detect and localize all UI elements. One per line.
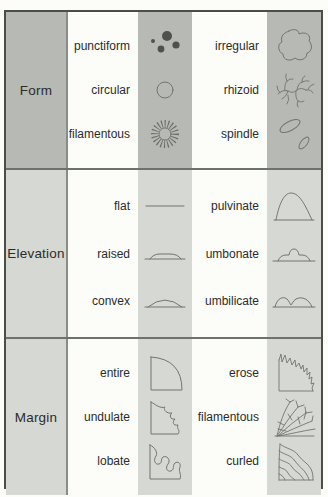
colony-morphology-diagram: Form punctiform circular filamentous bbox=[0, 0, 328, 497]
umbilicate-icon bbox=[270, 291, 318, 311]
label-punctiform: punctiform bbox=[74, 39, 130, 53]
label-undulate: undulate bbox=[84, 410, 130, 424]
morphology-table: Form punctiform circular filamentous bbox=[4, 10, 323, 489]
elevation-right-labels: pulvinate umbonate umbilicate bbox=[192, 170, 267, 337]
form-left-icons bbox=[138, 12, 192, 168]
label-circular: circular bbox=[91, 83, 130, 97]
label-lobate: lobate bbox=[97, 454, 130, 468]
form-right-icons bbox=[267, 12, 321, 168]
margin-left-labels: entire undulate lobate bbox=[68, 339, 138, 495]
label-pulvinate: pulvinate bbox=[211, 199, 259, 213]
label-rhizoid: rhizoid bbox=[224, 83, 259, 97]
margin-row: Margin entire undulate lobate bbox=[6, 337, 321, 487]
irregular-icon bbox=[273, 26, 315, 66]
umbonate-icon bbox=[270, 243, 318, 265]
filamentous-icon bbox=[143, 112, 187, 156]
form-right-labels: irregular rhizoid spindle bbox=[192, 12, 267, 168]
convex-icon bbox=[141, 291, 189, 311]
elevation-row: Elevation flat raised convex bbox=[6, 168, 321, 337]
label-convex: convex bbox=[92, 294, 130, 308]
label-spindle: spindle bbox=[221, 127, 259, 141]
erose-icon bbox=[272, 351, 316, 395]
rhizoid-icon bbox=[272, 69, 316, 111]
pulvinate-icon bbox=[271, 188, 317, 224]
label-umbilicate: umbilicate bbox=[205, 294, 259, 308]
label-filamentous-form: filamentous bbox=[69, 127, 130, 141]
label-irregular: irregular bbox=[215, 39, 259, 53]
entire-icon bbox=[144, 352, 186, 394]
category-cell-margin: Margin bbox=[6, 339, 68, 495]
elevation-right-icons bbox=[267, 170, 321, 337]
lobate-icon bbox=[144, 439, 186, 483]
elevation-left-labels: flat raised convex bbox=[68, 170, 138, 337]
category-cell-form: Form bbox=[6, 12, 68, 168]
margin-left-icons bbox=[138, 339, 192, 495]
curled-icon bbox=[272, 439, 316, 483]
label-raised: raised bbox=[97, 247, 130, 261]
category-label-elevation: Elevation bbox=[7, 246, 64, 261]
circular-icon bbox=[145, 76, 185, 104]
elevation-left-icons bbox=[138, 170, 192, 337]
category-cell-elevation: Elevation bbox=[6, 170, 68, 337]
label-filamentous-margin: filamentous bbox=[198, 410, 259, 424]
spindle-icon bbox=[273, 114, 315, 154]
margin-right-icons bbox=[267, 339, 321, 495]
label-flat: flat bbox=[114, 199, 130, 213]
filamentous-margin-icon bbox=[271, 395, 317, 439]
label-umbonate: umbonate bbox=[206, 247, 259, 261]
form-row: Form punctiform circular filamentous bbox=[6, 12, 321, 168]
raised-icon bbox=[141, 246, 189, 262]
punctiform-icon bbox=[145, 27, 185, 65]
label-curled: curled bbox=[226, 454, 259, 468]
margin-right-labels: erose filamentous curled bbox=[192, 339, 267, 495]
flat-icon bbox=[141, 199, 189, 213]
undulate-icon bbox=[144, 396, 186, 438]
label-entire: entire bbox=[100, 366, 130, 380]
category-label-margin: Margin bbox=[15, 410, 57, 425]
form-left-labels: punctiform circular filamentous bbox=[68, 12, 138, 168]
category-label-form: Form bbox=[20, 83, 52, 98]
label-erose: erose bbox=[229, 366, 259, 380]
